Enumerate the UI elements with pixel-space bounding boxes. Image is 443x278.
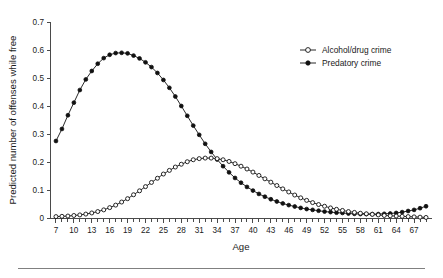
data-point	[72, 213, 76, 217]
data-point	[138, 57, 142, 61]
data-point	[400, 214, 404, 218]
legend-label: Alcohol/drug crime	[322, 45, 392, 55]
data-point	[215, 157, 219, 161]
data-point	[275, 200, 279, 204]
data-point	[323, 210, 327, 214]
data-point	[251, 170, 255, 174]
data-point	[287, 190, 291, 194]
data-point	[412, 215, 416, 219]
data-point	[185, 160, 189, 164]
data-point	[173, 165, 177, 169]
data-point	[191, 158, 195, 162]
x-axis-tick-label: 31	[195, 226, 205, 235]
x-axis-tick-label: 22	[141, 226, 151, 235]
data-point	[263, 177, 267, 181]
data-point	[299, 206, 303, 210]
x-axis-tick-label: 67	[410, 226, 420, 235]
x-axis-tick-label: 25	[159, 226, 169, 235]
data-point	[179, 162, 183, 166]
data-point	[102, 56, 106, 60]
data-point	[281, 202, 285, 206]
data-point	[239, 164, 243, 168]
data-point	[281, 187, 285, 191]
series-alcohol-drug-crime	[54, 156, 428, 219]
data-point	[155, 176, 159, 180]
x-axis-tick-label: 43	[266, 226, 276, 235]
data-point	[96, 210, 100, 214]
data-point	[227, 159, 231, 163]
data-point	[102, 208, 106, 212]
data-point	[293, 193, 297, 197]
data-point	[96, 62, 100, 66]
y-axis-tick-label: 0.2	[33, 158, 45, 167]
data-point	[197, 133, 201, 137]
data-point	[287, 203, 291, 207]
x-axis-tick-label: 61	[374, 226, 384, 235]
y-axis-tick-label: 0.6	[33, 46, 45, 55]
data-point	[418, 206, 422, 210]
data-point	[203, 156, 207, 160]
data-point	[323, 204, 327, 208]
data-point	[156, 71, 160, 75]
data-point	[132, 54, 136, 58]
figure-container: 00.10.20.30.40.50.60.7710131619222528313…	[0, 0, 443, 278]
data-point	[221, 164, 225, 168]
data-point	[60, 214, 64, 218]
data-point	[78, 88, 82, 92]
data-point	[209, 150, 213, 154]
chart-canvas: 00.10.20.30.40.50.60.7710131619222528313…	[0, 0, 443, 278]
y-axis-tick-label: 0	[39, 214, 44, 223]
data-point	[66, 113, 70, 117]
data-point	[305, 207, 309, 211]
data-point	[335, 207, 339, 211]
data-point	[185, 114, 189, 118]
data-point	[120, 200, 124, 204]
data-point	[179, 104, 183, 108]
data-point	[108, 53, 112, 57]
data-point	[245, 185, 249, 189]
x-axis-tick-label: 49	[302, 226, 312, 235]
data-point	[340, 208, 344, 212]
data-point	[84, 212, 88, 216]
series-line	[56, 53, 426, 214]
data-point	[311, 208, 315, 212]
data-point	[257, 192, 261, 196]
data-point	[114, 203, 118, 207]
x-axis-tick-label: 16	[105, 226, 115, 235]
data-point	[269, 180, 273, 184]
series-predatory-crime	[54, 51, 428, 216]
data-point	[257, 173, 261, 177]
x-axis-tick-label: 10	[69, 226, 79, 235]
x-axis-tick-label: 52	[320, 226, 330, 235]
data-point	[412, 208, 416, 212]
data-point	[191, 124, 195, 128]
data-point	[173, 95, 177, 99]
data-point	[54, 215, 58, 219]
data-point	[406, 215, 410, 219]
data-point	[382, 213, 386, 217]
x-axis-tick-label: 46	[284, 226, 294, 235]
chart-legend: Alcohol/drug crimePredatory crime	[300, 45, 392, 68]
y-axis-tick-label: 0.4	[33, 102, 45, 111]
data-point	[161, 172, 165, 176]
data-point	[364, 212, 368, 216]
data-point	[317, 203, 321, 207]
data-point	[370, 212, 374, 216]
x-axis-tick-label: 37	[230, 226, 240, 235]
data-point	[251, 189, 255, 193]
figure-footer-rule	[18, 268, 425, 269]
data-point	[346, 210, 350, 214]
data-point	[299, 196, 303, 200]
y-axis-tick-label: 0.1	[33, 186, 45, 195]
x-axis-tick-label: 58	[356, 226, 366, 235]
data-point	[108, 206, 112, 210]
data-point	[305, 198, 309, 202]
data-point	[144, 60, 148, 64]
x-axis-tick-label: 64	[392, 226, 402, 235]
data-point	[358, 211, 362, 215]
data-point	[84, 78, 88, 82]
data-point	[197, 157, 201, 161]
data-point	[400, 210, 404, 214]
data-point	[144, 185, 148, 189]
legend-entry: Alcohol/drug crime	[300, 45, 392, 55]
